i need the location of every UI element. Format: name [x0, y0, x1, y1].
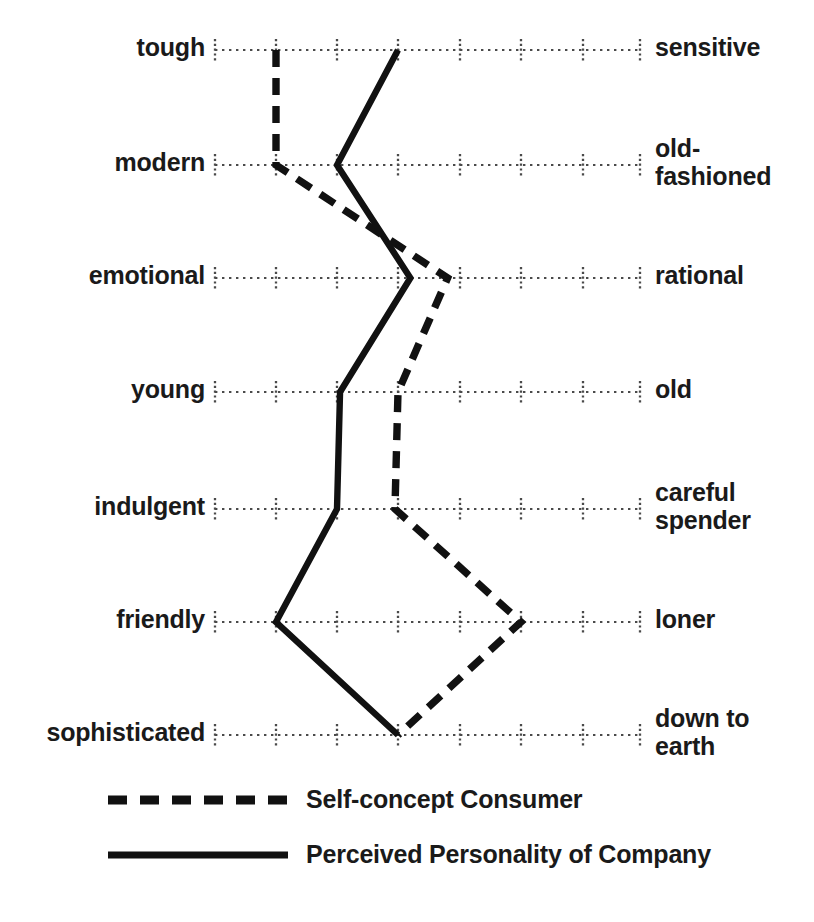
row-label-right-2: rational	[655, 261, 814, 289]
row-label-right-0: sensitive	[655, 33, 814, 61]
row-label-left-4: indulgent	[15, 492, 205, 520]
row-label-left-2: emotional	[15, 261, 205, 289]
row-label-right-6: down to earth	[655, 704, 814, 760]
row-label-right-5: loner	[655, 605, 814, 633]
legend-label-perceived-personality: Perceived Personality of Company	[306, 840, 711, 869]
row-label-left-3: young	[15, 375, 205, 403]
row-label-right-4: careful spender	[655, 478, 814, 534]
legend-label-self-concept: Self-concept Consumer	[306, 785, 582, 814]
row-label-left-6: sophisticated	[15, 718, 205, 746]
row-label-left-1: modern	[15, 148, 205, 176]
row-label-right-1: old- fashioned	[655, 134, 814, 190]
row-label-right-3: old	[655, 375, 814, 403]
row-label-left-0: tough	[15, 33, 205, 61]
row-label-left-5: friendly	[15, 605, 205, 633]
semantic-differential-chart: toughmodernemotionalyoungindulgentfriend…	[0, 0, 814, 922]
